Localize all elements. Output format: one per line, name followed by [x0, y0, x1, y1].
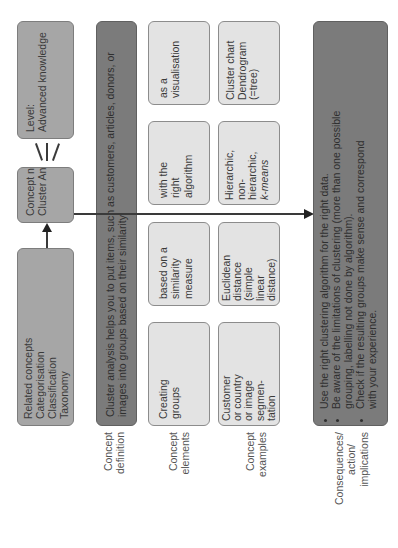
concept-name-box: Concept name Cluster Analysis [17, 167, 74, 223]
definition-box: Cluster analysis helps you to put items,… [96, 21, 137, 426]
example-text: distance) [266, 229, 277, 301]
label-line: Consequences/ [333, 432, 345, 532]
arrow-related-to-concept [46, 230, 48, 248]
related-concept-item: Taxonomy [58, 257, 70, 419]
label-line: Concept [244, 432, 256, 498]
arrow-head-up-icon [42, 223, 52, 232]
related-concept-item: Classification [46, 257, 58, 419]
consequence-item: Use the right clustering algorithm for t… [318, 30, 330, 409]
connector-line [46, 143, 48, 161]
label-line: elements [179, 432, 191, 498]
label-line: action/ [345, 432, 357, 532]
example-text: tation [266, 329, 277, 421]
consequence-item: Check if the resulting groups make sense… [354, 30, 378, 409]
element-text: algorithm [182, 130, 194, 198]
consequence-item: Be aware of the limitations of clusterin… [330, 30, 354, 409]
example-text: (=tree) [248, 28, 260, 100]
element-text: with the [157, 130, 169, 198]
connector-line [35, 143, 43, 160]
element-text: groups [169, 331, 181, 419]
consequences-list: Use the right clustering algorithm for t… [318, 30, 378, 419]
element-text: Creating [157, 331, 169, 419]
example-text: Cluster chart [225, 28, 237, 100]
concept-name-label: Concept name [24, 167, 36, 216]
definition-line: Cluster analysis helps you to put items,… [104, 32, 116, 417]
level-value: Advanced knowledge [36, 30, 48, 132]
element-box-visualisation: as a visualisation [148, 21, 210, 105]
example-text: Hierarchic, [224, 128, 236, 200]
element-box-similarity: based on a similarity measure [148, 222, 210, 306]
label-line: Concept [167, 432, 179, 498]
consequences-box: Use the right clustering algorithm for t… [313, 21, 388, 426]
connector-line [52, 143, 60, 160]
example-text: (simple [243, 229, 254, 301]
main-arrow-line [74, 213, 306, 215]
concept-name-value: Cluster Analysis [36, 167, 48, 216]
related-concepts-box: Related concepts Categorisation Classifi… [17, 248, 74, 426]
related-concept-item: Categorisation [34, 257, 46, 419]
element-text: right [169, 130, 181, 198]
example-box-cluster-chart: Cluster chart Dendrogram (=tree) [218, 21, 280, 105]
element-box-groups: Creating groups [148, 322, 210, 426]
example-text: or image [243, 329, 254, 421]
label-line: examples [256, 432, 268, 498]
element-text: measure [182, 231, 194, 299]
example-box-euclidean: Euclidean distance (simple linear distan… [218, 222, 280, 306]
level-box: Level: Advanced knowledge [17, 21, 74, 139]
label-line: implications [358, 432, 370, 532]
element-box-algorithm: with the right algorithm [148, 121, 210, 205]
example-text: hierarchic, [247, 128, 259, 200]
element-text: similarity [169, 231, 181, 299]
element-text: based on a [157, 231, 169, 299]
example-box-hierarchic: Hierarchic, non- hierarchic, k-means [218, 121, 280, 205]
level-label: Level: [24, 30, 36, 132]
definition-line: images into groups based on their simila… [116, 32, 128, 417]
label-line: Concept [102, 432, 114, 498]
element-text: visualisation [169, 30, 181, 98]
example-box-segmentation: Customer or country or image segmen- tat… [218, 322, 280, 426]
element-text: as a [157, 30, 169, 98]
related-concepts-title: Related concepts [22, 257, 34, 419]
label-line: definition [114, 432, 126, 498]
example-text: k-means [259, 128, 271, 200]
